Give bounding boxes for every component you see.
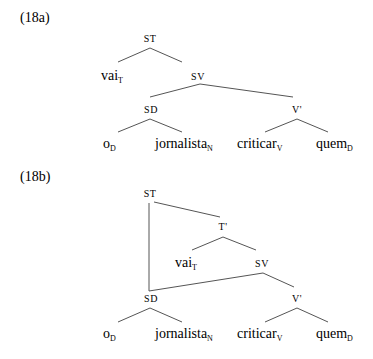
- branch-vbar-criticar: [265, 119, 297, 132]
- node-tbar: T': [219, 221, 228, 232]
- node-vai-t: vaiT: [101, 68, 123, 85]
- branch-sd-o: [118, 308, 150, 322]
- leaf-quem-d: quemD: [316, 136, 353, 153]
- branch-vbar-criticar: [265, 308, 297, 322]
- leaf-o-d: oD: [103, 326, 116, 343]
- leaf-criticar-v: criticarV: [237, 136, 283, 153]
- branch-st-vai: [118, 48, 150, 62]
- leaf-criticar-v: criticarV: [237, 326, 283, 343]
- node-sd: SD: [144, 293, 158, 304]
- branch-sv-vbar: [200, 84, 293, 97]
- node-st: ST: [144, 33, 157, 44]
- branch-st-sv: [150, 48, 182, 62]
- leaf-jornalista-n: jornalistaN: [154, 136, 213, 153]
- node-vai-t: vaiT: [175, 255, 197, 272]
- tree-18a: (18a) ST vaiT SV SD V' oD jornalistaN cr…: [20, 10, 353, 153]
- branch-sv-vbar: [263, 273, 294, 287]
- leaf-o-d: oD: [103, 136, 116, 153]
- node-sv: SV: [255, 258, 269, 269]
- branch-st-tbar: [154, 202, 220, 217]
- branch-sd-jornalista: [150, 119, 182, 132]
- branch-vbar-quem: [297, 308, 328, 322]
- tree-18b: (18b) ST T' vaiT SV SD V' oD jornalistaN…: [20, 169, 353, 343]
- branch-vbar-quem: [297, 119, 328, 132]
- node-sv: SV: [191, 71, 205, 82]
- branch-sv-sd-moved: [149, 273, 263, 291]
- branch-sd-o: [118, 119, 150, 132]
- node-vbar: V': [292, 293, 302, 304]
- branch-tbar-vai: [192, 237, 223, 250]
- branch-sv-sd: [150, 84, 200, 97]
- node-sd: SD: [144, 104, 158, 115]
- branch-sd-jornalista: [150, 308, 182, 322]
- leaf-jornalista-n: jornalistaN: [154, 326, 213, 343]
- node-vbar: V': [292, 104, 302, 115]
- node-st: ST: [144, 188, 157, 199]
- example-label-18b: (18b): [20, 169, 51, 185]
- leaf-quem-d: quemD: [316, 326, 353, 343]
- example-label-18a: (18a): [20, 10, 50, 26]
- branch-tbar-sv: [223, 237, 256, 250]
- syntax-tree-figure: (18a) ST vaiT SV SD V' oD jornalistaN cr…: [0, 0, 373, 359]
